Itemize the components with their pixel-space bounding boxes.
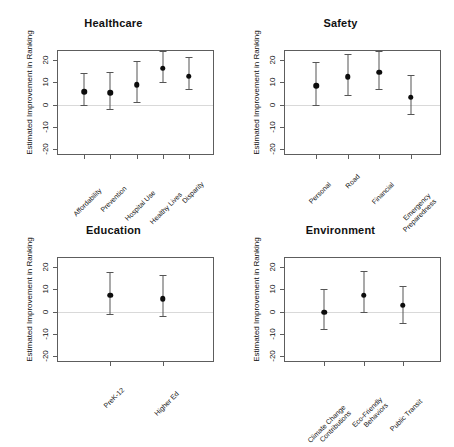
panel-healthcare: HealthcareEstimated Improvement in Ranki… [0, 0, 227, 206]
y-axis-tick [53, 149, 58, 150]
panel-title: Education [0, 224, 227, 236]
error-bar-cap-lower [313, 105, 320, 106]
y-axis-tick [280, 105, 285, 106]
y-axis-tick [280, 356, 285, 357]
data-point-marker [160, 296, 166, 302]
error-bar-cap-upper [321, 289, 328, 290]
plot-area: 20100-10-20PersonalRoadFinancialEmergenc… [284, 50, 441, 155]
x-axis-tick [411, 154, 412, 159]
error-bar-cap-lower [360, 312, 367, 313]
error-bar-cap-upper [313, 62, 320, 63]
x-axis-label-climate-change-contributions: Climate ChangeContributions [306, 403, 353, 447]
y-axis-label: Estimated Improvement in Ranking [249, 33, 263, 158]
x-axis-label-disparity: Disparity [181, 180, 206, 205]
data-point-marker [108, 90, 114, 96]
x-axis-label-higher-ed: Higher Ed [153, 390, 181, 418]
x-axis-label-road: Road [344, 173, 361, 190]
x-axis-tick [189, 154, 190, 159]
y-axis-tick [280, 60, 285, 61]
y-axis-tick [53, 312, 58, 313]
x-axis-tick [324, 361, 325, 366]
y-axis-tick [53, 105, 58, 106]
error-bar-cap-lower [185, 89, 192, 90]
plot-area: 20100-10-20PreK-12Higher Ed [57, 257, 214, 362]
error-bar-cap-lower [399, 323, 406, 324]
data-point-marker [160, 66, 166, 72]
error-bar-cap-lower [159, 316, 166, 317]
x-axis-tick [137, 154, 138, 159]
y-axis-tick [280, 334, 285, 335]
y-axis-tick-label: 10 [41, 285, 50, 294]
x-axis-label-eco-friendly-behaviors: Eco-FriendlyBehaviors [350, 396, 389, 435]
error-bar-cap-upper [344, 54, 351, 55]
y-axis-tick-label: -10 [41, 328, 50, 340]
y-axis-tick [53, 289, 58, 290]
x-axis-tick [84, 154, 85, 159]
y-axis-tick [53, 127, 58, 128]
error-bar-cap-upper [159, 51, 166, 52]
y-axis-tick-label: 0 [41, 309, 50, 313]
error-bar-cap-upper [360, 271, 367, 272]
error-bar-cap-upper [376, 51, 383, 52]
y-axis-label-text: Estimated Improvement in Ranking [252, 23, 261, 163]
y-axis-tick-label: 0 [268, 102, 277, 106]
error-bar-cap-lower [133, 102, 140, 103]
x-axis-label-public-transit: Public Transit [388, 398, 423, 433]
data-point-marker [108, 293, 114, 299]
error-bar-cap-upper [133, 61, 140, 62]
x-axis-tick [110, 154, 111, 159]
error-bar-cap-upper [107, 272, 114, 273]
error-bar-cap-lower [107, 109, 114, 110]
x-axis-tick [163, 361, 164, 366]
x-axis-tick [379, 154, 380, 159]
error-bar-cap-lower [159, 82, 166, 83]
y-axis-tick-label: -10 [268, 328, 277, 340]
error-bar-cap-lower [107, 314, 114, 315]
y-axis-tick [280, 312, 285, 313]
y-axis-tick-label: -10 [41, 121, 50, 133]
y-axis-label: Estimated Improvement in Ranking [22, 240, 36, 365]
error-bar-cap-lower [407, 114, 414, 115]
y-axis-label-text: Estimated Improvement in Ranking [25, 23, 34, 163]
x-axis-tick [163, 154, 164, 159]
zero-reference-line [58, 312, 213, 313]
error-bar-cap-lower [376, 89, 383, 90]
plot-area: 20100-10-20Climate ChangeContributionsEc… [284, 257, 441, 362]
y-axis-tick-label: 20 [41, 55, 50, 64]
error-bar-cap-lower [81, 105, 88, 106]
x-axis-tick [110, 361, 111, 366]
plot-area: 20100-10-20AffordabilityPreventionHospit… [57, 50, 214, 155]
y-axis-label: Estimated Improvement in Ranking [22, 33, 36, 158]
panel-safety: SafetyEstimated Improvement in Ranking20… [227, 0, 454, 206]
y-axis-tick-label: -20 [41, 351, 50, 363]
y-axis-tick [53, 356, 58, 357]
x-axis-tick [348, 154, 349, 159]
y-axis-label-text: Estimated Improvement in Ranking [25, 230, 34, 370]
y-axis-tick-label: -20 [268, 351, 277, 363]
y-axis-label-text: Estimated Improvement in Ranking [252, 230, 261, 370]
y-axis-tick-label: 10 [268, 285, 277, 294]
x-axis-label-financial: Financial [371, 181, 396, 206]
y-axis-tick [280, 289, 285, 290]
panel-title: Safety [227, 17, 454, 29]
data-point-marker [408, 95, 414, 101]
panel-title: Environment [227, 224, 454, 236]
data-point-marker [361, 293, 367, 299]
y-axis-tick-label: 20 [268, 262, 277, 271]
y-axis-tick [53, 334, 58, 335]
data-point-marker [314, 83, 320, 89]
y-axis-tick-label: 20 [41, 262, 50, 271]
y-axis-tick [53, 267, 58, 268]
panel-education: EducationEstimated Improvement in Rankin… [0, 207, 227, 413]
data-point-marker [376, 70, 382, 76]
data-point-marker [81, 89, 87, 95]
y-axis-tick-label: -10 [268, 121, 277, 133]
error-bar-cap-lower [344, 95, 351, 96]
data-point-marker [400, 303, 406, 309]
data-point-marker [345, 74, 351, 80]
x-axis-label-personal: Personal [308, 181, 333, 206]
error-bar-cap-upper [81, 73, 88, 74]
y-axis-tick-label: 0 [41, 102, 50, 106]
error-bar-cap-upper [407, 75, 414, 76]
